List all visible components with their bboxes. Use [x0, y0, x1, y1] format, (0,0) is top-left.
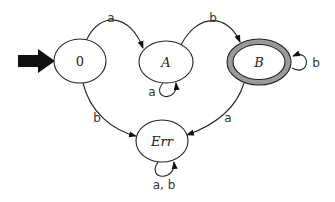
state-0: 0: [54, 39, 106, 83]
transition-label: a: [224, 111, 231, 125]
automaton-diagram: a b a b b a a, b: [0, 0, 335, 202]
transition-label: a, b: [153, 178, 176, 192]
transition-label: a: [148, 85, 155, 99]
state-label: Err: [150, 134, 174, 149]
state-A: A: [139, 41, 193, 83]
transition-B-to-B: b: [292, 55, 320, 70]
transition-label: b: [209, 11, 217, 25]
state-label: A: [160, 55, 170, 70]
state-label: 0: [76, 54, 84, 69]
transition-B-to-Err: a: [187, 83, 244, 135]
state-B-accepting: B: [227, 39, 291, 85]
start-arrow-icon: [18, 49, 55, 73]
transition-label: b: [93, 111, 101, 125]
transition-A-to-B: b: [181, 11, 240, 45]
transition-label: b: [312, 56, 320, 70]
transition-label: a: [107, 11, 114, 25]
transition-Err-to-Err: a, b: [153, 162, 176, 192]
state-Err: Err: [136, 120, 188, 162]
transition-A-to-A: a: [148, 83, 176, 99]
transition-0-to-Err: b: [83, 83, 136, 136]
state-label: B: [253, 55, 264, 70]
